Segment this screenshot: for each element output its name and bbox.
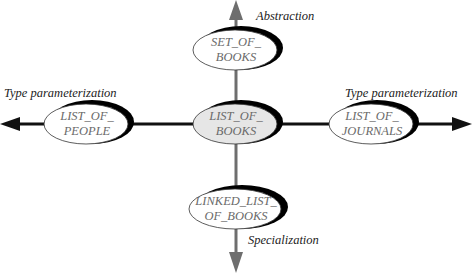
label-type-parameterization-left: Type parameterization xyxy=(4,86,117,100)
node-label-line1: LIST_OF_ xyxy=(208,109,263,123)
node-label-line2: JOURNALS xyxy=(342,124,403,138)
node-set-of-books: SET_OF_ BOOKS xyxy=(193,26,283,70)
node-label-line2: PEOPLE xyxy=(63,124,111,138)
node-list-of-people: LIST_OF_ PEOPLE xyxy=(44,100,134,144)
label-specialization: Specialization xyxy=(248,233,319,247)
genericity-inheritance-diagram: SET_OF_ BOOKS LIST_OF_ PEOPLE LIST_OF_ B… xyxy=(0,0,472,273)
node-linked-list-of-books: LINKED_LIST_ OF_BOOKS xyxy=(189,185,288,229)
node-label-line2: BOOKS xyxy=(216,124,257,138)
node-label-line2: OF_BOOKS xyxy=(204,209,268,223)
node-label-line1: LIST_OF_ xyxy=(344,109,399,123)
node-label-line1: LINKED_LIST_ xyxy=(194,194,277,208)
node-list-of-journals: LIST_OF_ JOURNALS xyxy=(329,100,419,144)
node-label-line1: SET_OF_ xyxy=(211,35,262,49)
arrowhead-up-icon xyxy=(229,0,243,20)
node-list-of-books: LIST_OF_ BOOKS xyxy=(193,100,283,144)
arrowhead-left-icon xyxy=(0,117,20,131)
label-type-parameterization-right: Type parameterization xyxy=(345,86,458,100)
node-label-line1: LIST_OF_ xyxy=(59,109,114,123)
node-label-line2: BOOKS xyxy=(216,50,257,64)
arrowhead-down-icon xyxy=(229,252,243,273)
arrowhead-right-icon xyxy=(452,117,472,131)
label-abstraction: Abstraction xyxy=(255,9,314,23)
